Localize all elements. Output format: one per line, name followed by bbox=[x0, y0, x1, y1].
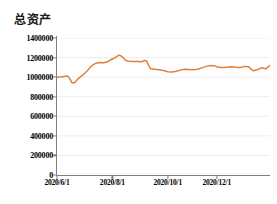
x-tick-label: 2020/6/1 bbox=[44, 178, 69, 187]
y-tick-label: 1000000 bbox=[26, 73, 53, 82]
y-tick-label: 400000 bbox=[30, 131, 53, 140]
y-tick-label: 600000 bbox=[30, 112, 53, 121]
y-tick-label: 1200000 bbox=[26, 53, 53, 62]
x-tick-mark bbox=[56, 175, 57, 179]
x-tick-label: 2020/10/1 bbox=[153, 178, 182, 187]
y-tick-label: 200000 bbox=[30, 151, 53, 160]
x-tick-mark bbox=[216, 175, 217, 179]
y-tick-label: 1400000 bbox=[26, 34, 53, 43]
chart-figure: 总资产 020000040000060000080000010000001200… bbox=[0, 0, 277, 204]
x-tick-label: 2020/12/1 bbox=[202, 178, 231, 187]
x-tick-mark bbox=[112, 175, 113, 179]
x-tick-label: 2020/8/1 bbox=[100, 178, 125, 187]
y-tick-label: 800000 bbox=[30, 92, 53, 101]
series-line-total-assets bbox=[57, 38, 270, 175]
series-path bbox=[57, 55, 270, 83]
x-tick-mark bbox=[167, 175, 168, 179]
plot-area bbox=[57, 38, 270, 175]
chart-title: 总资产 bbox=[14, 10, 52, 27]
